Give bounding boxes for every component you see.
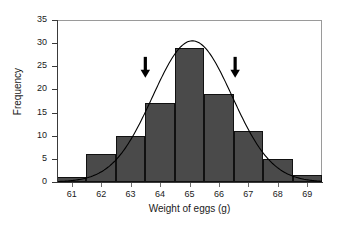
y-axis-tick	[52, 66, 57, 67]
histogram-figure: 05101520253035 Frequency 616263646566676…	[0, 0, 339, 228]
y-axis-tick-label: 30	[37, 38, 47, 47]
x-axis-tick	[307, 183, 308, 187]
histogram-bar	[116, 136, 145, 182]
x-axis-tick-label: 62	[86, 189, 116, 199]
y-axis-tick-label: 5	[42, 154, 47, 163]
y-axis-tick-label: 35	[37, 15, 47, 24]
histogram-bar	[263, 159, 292, 182]
histogram-bar	[145, 103, 174, 182]
x-axis-tick-label: 61	[57, 189, 87, 199]
x-axis-tick	[101, 183, 102, 187]
histogram-bar	[293, 175, 322, 182]
histogram-bar	[204, 94, 233, 182]
histogram-bar	[234, 131, 263, 182]
y-axis-tick	[52, 113, 57, 114]
x-axis-tick	[278, 183, 279, 187]
x-axis-tick-label: 69	[292, 189, 322, 199]
y-axis-line	[57, 20, 58, 183]
x-axis-tick-label: 66	[204, 189, 234, 199]
x-axis-tick-label: 64	[145, 189, 175, 199]
x-axis-tick	[219, 183, 220, 187]
y-axis-tick	[52, 20, 57, 21]
x-axis-tick-label: 65	[175, 189, 205, 199]
x-axis-tick	[160, 183, 161, 187]
y-axis-tick-label: 25	[37, 61, 47, 70]
histogram-bar	[86, 154, 115, 182]
x-axis-tick-label: 67	[233, 189, 263, 199]
y-axis-tick	[52, 136, 57, 137]
y-axis-tick-label: 10	[37, 131, 47, 140]
x-axis-tick	[131, 183, 132, 187]
y-axis-title: Frequency	[12, 47, 23, 137]
x-axis-tick-label: 63	[116, 189, 146, 199]
y-axis-tick	[52, 89, 57, 90]
y-axis-tick-label: 20	[37, 84, 47, 93]
x-axis-tick	[72, 183, 73, 187]
y-axis-tick	[52, 159, 57, 160]
y-axis-tick-label: 0	[42, 177, 47, 186]
x-axis-tick	[248, 183, 249, 187]
y-axis-tick	[52, 43, 57, 44]
x-axis-tick	[190, 183, 191, 187]
y-axis-tick-label: 15	[37, 108, 47, 117]
x-axis-title: Weight of eggs (g)	[57, 203, 322, 214]
x-axis-tick-label: 68	[263, 189, 293, 199]
y-axis-tick	[52, 182, 57, 183]
histogram-bar	[175, 48, 204, 182]
